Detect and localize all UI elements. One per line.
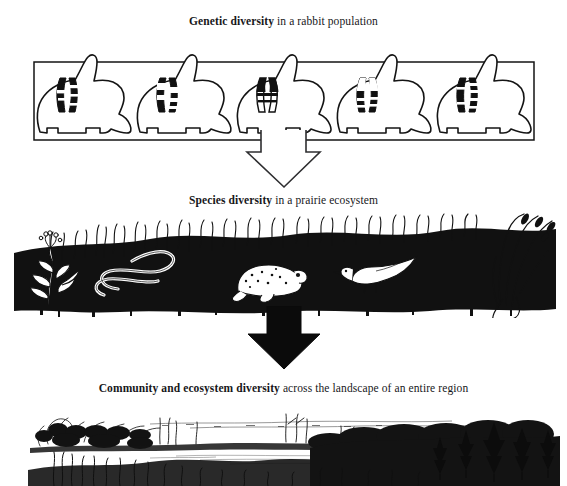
caption-genetic-diversity: Genetic diversity in a rabbit population (0, 14, 567, 28)
caption-genetic-lead: Genetic diversity (189, 15, 274, 27)
caption-species-rest: in a prairie ecosystem (272, 194, 378, 206)
rabbit-silhouette-3 (237, 55, 331, 133)
arrow-genetic-to-species (0, 130, 567, 192)
arrow-species-to-community (0, 306, 567, 374)
rabbit-silhouette-5 (437, 55, 531, 133)
biodiversity-levels-figure: Genetic diversity in a rabbit population (0, 0, 567, 486)
rabbit-silhouette-2 (137, 55, 231, 133)
rabbit-silhouette-1 (37, 55, 131, 133)
caption-species-lead: Species diversity (189, 194, 272, 206)
illustration-species-diversity (0, 213, 567, 318)
rabbit-silhouette-4 (337, 55, 431, 133)
caption-community-rest: across the landscape of an entire region (280, 382, 468, 394)
landscape-sketch (28, 414, 560, 486)
landscape-conifer-stand (308, 420, 560, 486)
caption-community-lead: Community and ecosystem diversity (99, 382, 280, 394)
illustration-genetic-diversity (0, 32, 567, 144)
caption-species-diversity: Species diversity in a prairie ecosystem (0, 193, 567, 207)
caption-community-diversity: Community and ecosystem diversity across… (0, 381, 567, 395)
illustration-community-diversity (0, 400, 567, 486)
landscape-left-foliage (35, 423, 153, 449)
caption-genetic-rest: in a rabbit population (274, 15, 378, 27)
